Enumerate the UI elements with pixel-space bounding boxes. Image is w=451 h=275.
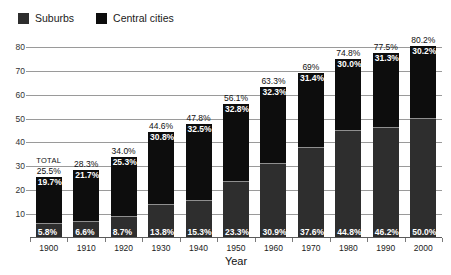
legend-swatch-icon (18, 13, 29, 24)
bar-total-label: 74.8% (331, 48, 365, 58)
bar-segment-central-cities: 32.3% (260, 87, 286, 164)
bar-total-label: 63.3% (256, 76, 290, 86)
x-axis-tick-label: 2000 (414, 243, 433, 253)
x-axis-tick-mark (67, 238, 68, 242)
bar-segment-value-label: 44.8% (337, 228, 361, 237)
bar-group: 25.3%8.7% (111, 157, 137, 238)
bar-segment-suburbs: 30.9% (260, 164, 286, 238)
bar-total-label: 56.1% (219, 93, 253, 103)
bar-total-label: 47.8% (182, 113, 216, 123)
bar-total-label: 25.5% (32, 166, 66, 176)
x-axis-tick-label: 1920 (114, 243, 133, 253)
legend-label: Suburbs (35, 13, 74, 24)
y-axis-tick-label: 60 (16, 90, 25, 100)
bar-segment-value-label: 37.6% (300, 228, 324, 237)
bar-segment-value-label: 30.9% (262, 228, 286, 237)
bar-segment-suburbs: 8.7% (111, 217, 137, 238)
x-axis-tick-label: 1930 (152, 243, 171, 253)
x-axis-tick-mark (180, 238, 181, 242)
bar-segment-suburbs: 5.8% (36, 224, 62, 238)
bar-group: 32.5%15.3% (186, 124, 212, 238)
x-axis-tick-mark (367, 238, 368, 242)
y-axis-tick-label: 50 (16, 114, 25, 124)
y-axis-tick-label: 10 (16, 209, 25, 219)
bar-segment-value-label: 31.4% (300, 74, 324, 83)
bar-segment-value-label: 25.3% (113, 158, 137, 167)
bar-segment-value-label: 13.8% (150, 228, 174, 237)
x-axis-tick-label: 1910 (77, 243, 96, 253)
total-annotation-label: TOTAL (30, 156, 68, 165)
bar-group: 19.7%5.8% (36, 177, 62, 238)
bar-segment-suburbs: 6.6% (73, 222, 99, 238)
x-axis-tick-mark (442, 238, 443, 242)
bar-group: 21.7%6.6% (73, 170, 99, 238)
x-axis-tick-mark (105, 238, 106, 242)
bar-segment-central-cities: 31.4% (298, 73, 324, 148)
x-axis-tick-label: 1990 (376, 243, 395, 253)
x-axis-tick-label: 1970 (301, 243, 320, 253)
x-axis-tick-mark (330, 238, 331, 242)
bar-total-label: 44.6% (144, 121, 178, 131)
y-axis-tick-label: 30 (16, 161, 25, 171)
bar-segment-value-label: 30.8% (150, 133, 174, 142)
bar-group: 32.8%23.3% (223, 104, 249, 238)
y-axis-tick-label: 80 (16, 42, 25, 52)
bar-total-label: 69% (294, 62, 328, 72)
bar-segment-central-cities: 32.8% (223, 104, 249, 182)
bar-segment-value-label: 5.8% (38, 228, 57, 237)
bar-segment-value-label: 32.8% (225, 105, 249, 114)
bar-segment-suburbs: 46.2% (373, 128, 399, 238)
legend-item-central-cities: Central cities (96, 13, 174, 24)
x-axis-tick-mark (405, 238, 406, 242)
bar-segment-suburbs: 44.8% (335, 131, 361, 238)
bar-segment-value-label: 46.2% (375, 228, 399, 237)
bar-group: 30.2%50.0% (410, 46, 436, 238)
x-axis-tick-mark (255, 238, 256, 242)
chart-legend: SuburbsCentral cities (18, 10, 174, 26)
bar-segment-value-label: 8.7% (113, 228, 132, 237)
y-axis-tick-label: 40 (16, 137, 25, 147)
bar-segment-central-cities: 21.7% (73, 170, 99, 222)
bar-segment-suburbs: 50.0% (410, 119, 436, 238)
y-axis-tick-label: 70 (16, 66, 25, 76)
legend-label: Central cities (113, 13, 174, 24)
x-axis-tick-label: 1940 (189, 243, 208, 253)
bar-group: 31.3%46.2% (373, 53, 399, 238)
x-axis-tick-mark (292, 238, 293, 242)
bar-segment-value-label: 50.0% (412, 228, 436, 237)
x-axis-tick-label: 1900 (39, 243, 58, 253)
x-axis-tick-mark (30, 238, 31, 242)
bar-segment-value-label: 21.7% (75, 171, 99, 180)
bar-segment-value-label: 23.3% (225, 228, 249, 237)
plot-area: 1020304050607080 19.7%5.8%25.5%TOTAL21.7… (30, 35, 442, 238)
bar-segment-value-label: 6.6% (75, 228, 94, 237)
bar-group: 32.3%30.9% (260, 87, 286, 238)
bar-segment-value-label: 32.3% (262, 88, 286, 97)
bar-segment-value-label: 30.2% (412, 47, 436, 56)
bar-segment-suburbs: 15.3% (186, 201, 212, 238)
x-axis-tick-label: 1960 (264, 243, 283, 253)
x-axis-tick-label: 1980 (339, 243, 358, 253)
bar-total-label: 28.3% (69, 159, 103, 169)
bar-segment-central-cities: 19.7% (36, 177, 62, 224)
bar-total-label: 77.5% (369, 42, 403, 52)
bar-segment-central-cities: 32.5% (186, 124, 212, 202)
bar-segment-central-cities: 30.2% (410, 46, 436, 118)
x-axis-tick-label: 1950 (227, 243, 246, 253)
bar-segment-central-cities: 30.8% (148, 132, 174, 206)
y-axis-tick-label: 20 (16, 185, 25, 195)
x-axis-ticks: 1900191019201930194019501960197019801990… (30, 238, 442, 254)
bar-total-label: 34.0% (107, 146, 141, 156)
x-axis-title: Year (30, 255, 442, 267)
stacked-bar-chart: SuburbsCentral cities 1020304050607080 1… (0, 0, 451, 275)
bar-segment-central-cities: 25.3% (111, 157, 137, 217)
bar-segment-central-cities: 30.0% (335, 59, 361, 131)
bar-segment-suburbs: 37.6% (298, 148, 324, 238)
bar-series-container: 19.7%5.8%25.5%TOTAL21.7%6.6%28.3%25.3%8.… (30, 35, 442, 238)
bar-group: 30.8%13.8% (148, 132, 174, 239)
legend-item-suburbs: Suburbs (18, 13, 74, 24)
bar-segment-value-label: 31.3% (375, 54, 399, 63)
bar-segment-value-label: 15.3% (188, 228, 212, 237)
bar-segment-value-label: 30.0% (337, 60, 361, 69)
bar-segment-value-label: 32.5% (188, 125, 212, 134)
